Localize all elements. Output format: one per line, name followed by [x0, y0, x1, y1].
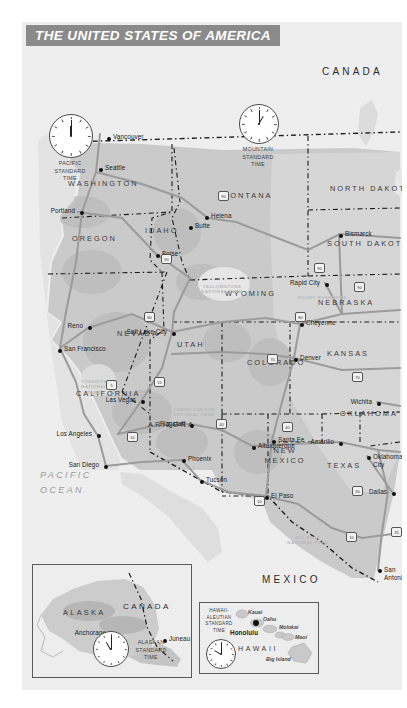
city-label-san-francisco: San Francisco — [64, 346, 106, 352]
interstate-shield-80: 80 — [144, 312, 155, 322]
park-label-mount-rushmore: MOUNT RUSHMORE — [292, 295, 352, 300]
alaska-inset[interactable]: ALASKA CANADA AnchorageJuneau ALASKAN ST… — [32, 564, 192, 678]
state-label-utah: UTAH — [177, 341, 205, 348]
clock-tick — [221, 665, 222, 667]
clock-tick — [208, 654, 210, 655]
interstate-shield-90: 90 — [314, 263, 325, 273]
clock-center — [70, 135, 72, 137]
clock-tick — [250, 137, 252, 140]
interstate-shield-90: 90 — [218, 191, 229, 201]
alaska-canada-label: CANADA — [123, 603, 171, 611]
city-label-portland: Portland — [51, 208, 75, 214]
park-label-yellowstone: YELLOWSTONE NATIONAL PARK — [192, 284, 252, 295]
interstate-shield-70: 70 — [352, 372, 363, 382]
city-label-oklahoma-city: Oklahoma City — [373, 453, 402, 468]
page-margin-bottom — [0, 690, 407, 708]
clock-tick — [244, 131, 247, 133]
city-label-tucson: Tucson — [206, 477, 227, 483]
clock-tick — [226, 663, 228, 665]
clock-tick — [88, 136, 91, 137]
city-label-salt-lake-city: Salt Lake City — [127, 329, 167, 335]
hawaii-island-label-maui: Maui — [295, 635, 307, 640]
interstate-shield-40: 40 — [282, 422, 293, 432]
clock-tick — [97, 641, 99, 643]
timezone-label-1: MOUNTAIN STANDARD TIME — [233, 146, 283, 169]
timezone-clock-0-minute-hand — [71, 120, 72, 136]
country-label-mexico: MEXICO — [262, 575, 321, 585]
clock-tick — [122, 641, 124, 643]
state-label-montana: MONTANA — [222, 192, 272, 199]
city-label-helena: Helena — [211, 213, 232, 219]
interstate-shield-80: 80 — [295, 312, 306, 322]
city-label-las-vegas: Las Vegas — [106, 397, 136, 403]
clock-tick — [103, 635, 105, 637]
clock-center — [220, 653, 222, 655]
clock-tick — [97, 655, 99, 657]
clock-tick — [85, 144, 88, 146]
clock-tick — [71, 117, 72, 120]
clock-tick — [232, 654, 234, 655]
interstate-shield-90: 90 — [161, 254, 172, 264]
interstate-shield-35: 35 — [352, 486, 363, 496]
clock-tick — [210, 659, 212, 661]
map-canvas[interactable]: WASHINGTONOREGONIDAHOMONTANANORTH DAKOTA… — [22, 22, 402, 690]
clock-tick — [241, 124, 244, 125]
interstate-shield-10: 10 — [127, 432, 138, 442]
clock-tick — [244, 115, 247, 117]
clock-tick — [79, 119, 81, 122]
clock-tick — [266, 109, 268, 112]
country-label-canada: CANADA — [322, 67, 383, 77]
city-label-los-angeles: Los Angeles — [57, 431, 92, 437]
clock-tick — [117, 635, 119, 637]
state-label-south-dakota: SOUTH DAKOTA — [327, 240, 402, 247]
hawaii-island-label-big-island: Big Island — [266, 657, 291, 662]
pacific-ocean-label: PACIFIC OCEAN — [40, 468, 92, 499]
clock-tick — [95, 649, 97, 650]
hawaii-region-label: HAWAII — [238, 645, 278, 652]
clock-tick — [71, 153, 72, 156]
clock-tick — [259, 139, 260, 142]
clock-center — [110, 648, 112, 650]
clock-tick — [85, 126, 88, 128]
clock-tick — [272, 131, 275, 133]
page-title: THE UNITED STATES OF AMERICA — [35, 28, 271, 43]
clock-tick — [117, 660, 119, 662]
map-title-banner: THE UNITED STATES OF AMERICA — [26, 25, 280, 46]
city-label-rapid-city: Rapid City — [290, 280, 320, 286]
city-label-butte: Butte — [195, 223, 210, 229]
hawaii-inset[interactable]: HAWAII KauaiOahuMolokaiMauiBig Island Ho… — [199, 602, 319, 674]
city-label-el-paso: El Paso — [271, 493, 293, 499]
interstate-shield-5: 5 — [106, 380, 117, 390]
hawaii-island-label-molokai: Molokai — [279, 625, 298, 630]
alaskan-standard-time-label: ALASKAN STANDARD TIME — [129, 639, 173, 662]
park-label-big-bend: BIG BEND NATIONAL PARK — [278, 535, 338, 546]
timezone-clock-1-face — [239, 104, 279, 144]
city-label-denver: Denver — [300, 355, 321, 361]
hawaii-aleutian-standard-time-label: HAWAII- ALEUTIAN STANDARD TIME — [201, 608, 237, 635]
alaskan-standard-time-face — [93, 631, 129, 667]
interstate-shield-10: 10 — [346, 532, 357, 542]
timezone-clock-1-minute-hand — [259, 110, 260, 124]
clock-tick — [61, 150, 63, 153]
interstate-shield-35: 35 — [391, 527, 402, 537]
interstate-shield-10: 10 — [254, 496, 265, 506]
city-label-cheyenne: Cheyenne — [306, 320, 336, 326]
city-label-bismarck: Bismarck — [345, 231, 372, 237]
city-label-phoenix: Phoenix — [188, 456, 211, 462]
city-label-san-antonio: San Antonio — [384, 566, 402, 581]
clock-tick — [210, 647, 212, 649]
clock-tick — [214, 643, 216, 645]
clock-tick — [103, 660, 105, 662]
city-label-vancouver: Vancouver — [113, 134, 144, 140]
page-margin-left — [0, 0, 22, 708]
map-page: WASHINGTONOREGONIDAHOMONTANANORTH DAKOTA… — [0, 0, 407, 708]
city-label-seattle: Seattle — [105, 165, 125, 171]
interstate-shield-70: 70 — [267, 354, 278, 364]
clock-tick — [266, 137, 268, 140]
city-label-wichita: Wichita — [351, 399, 372, 405]
clock-tick — [54, 144, 57, 146]
city-label-amarillo: Amarillo — [310, 439, 334, 445]
page-margin-top — [0, 0, 407, 22]
state-label-oklahoma: OKLAHOMA — [340, 410, 398, 417]
timezone-clock-0-face — [49, 114, 93, 158]
